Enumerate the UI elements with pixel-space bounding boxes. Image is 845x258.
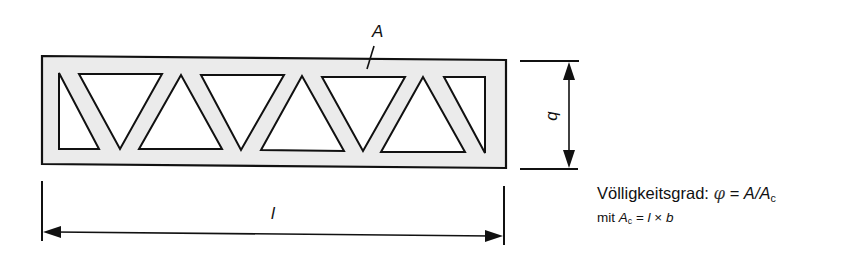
ac-times: ×: [651, 210, 666, 225]
width-arrow-top-icon: [563, 62, 575, 80]
length-arrow-left-icon: [43, 226, 61, 238]
width-label: b: [544, 111, 563, 120]
ac-prefix: mit: [597, 210, 619, 225]
formula-Ac-subscript: c: [770, 192, 775, 204]
formula-equals: =: [725, 184, 744, 202]
ac-b: b: [666, 210, 674, 225]
width-arrow-bottom-icon: [563, 150, 575, 168]
ac-equals: =: [632, 210, 647, 225]
truss-diagram: A b l: [0, 0, 845, 258]
formula-A: A: [744, 184, 755, 202]
formula-prefix: Völligkeitsgrad:: [597, 184, 713, 202]
phi-symbol: φ: [713, 184, 725, 203]
formula-Ac: A: [759, 184, 770, 202]
fullness-ratio-formula: Völligkeitsgrad: φ = A/Ac: [597, 184, 776, 204]
ac-definition-formula: mit Ac = l × b: [597, 210, 673, 226]
length-dimension-line: [55, 232, 492, 236]
length-arrow-right-icon: [485, 230, 503, 242]
area-label: A: [371, 22, 383, 41]
ac-symbol: A: [619, 210, 628, 225]
length-label: l: [271, 204, 276, 223]
